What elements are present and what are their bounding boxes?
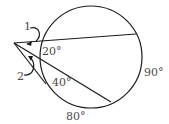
lower-secant [14, 43, 111, 102]
angle-2-label: 2 [17, 70, 24, 83]
arc-90-label: 90° [144, 66, 164, 79]
arc-40-label: 40° [52, 76, 72, 89]
angle-1-pointer [30, 28, 39, 41]
circle-diagram: 1 2 20° 40° 90° 80° [0, 0, 169, 124]
arc-80-label: 80° [66, 110, 86, 123]
arc-20-label: 20° [42, 45, 62, 58]
angle-1-label: 1 [24, 20, 31, 33]
upper-secant [14, 34, 136, 43]
